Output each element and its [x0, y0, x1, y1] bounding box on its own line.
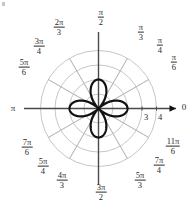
angle-3pi-4-denominator: 4	[34, 47, 45, 56]
angle-5pi-4-label: 5π4	[38, 157, 49, 176]
radial-tick-3-text: 3	[144, 113, 148, 122]
angle-pi-4-denominator: 4	[157, 46, 163, 55]
angle-pi-2-denominator: 2	[98, 18, 104, 27]
angle-pi-6-denominator: 6	[171, 63, 177, 72]
angle-7pi-4-denominator: 4	[154, 166, 165, 175]
angle-0-label: 0	[182, 103, 187, 112]
angle-pi-2-label: π2	[98, 8, 104, 27]
angle-5pi-3-label: 5π3	[135, 171, 146, 190]
radial-tick-4-text: 4	[158, 113, 162, 122]
angle-11pi-6-label: 11π6	[166, 137, 180, 156]
angle-7pi-6-denominator: 6	[22, 148, 33, 157]
angle-5pi-4-denominator: 4	[38, 167, 49, 176]
angle-2pi-3-label: 2π3	[54, 18, 65, 37]
angle-3pi-2-denominator: 2	[96, 193, 107, 202]
angle-5pi-6-label: 5π6	[19, 58, 30, 77]
angle-5pi-3-denominator: 3	[135, 181, 146, 190]
angle-2pi-3-denominator: 3	[54, 28, 65, 37]
angle-pi-6-label: π6	[171, 53, 177, 72]
angle-pi-3-denominator: 3	[138, 33, 144, 42]
axis-arrowhead-icon	[170, 105, 177, 111]
angle-pi-3-label: π3	[138, 23, 144, 42]
angle-pi-4-label: π4	[157, 36, 163, 55]
angle-5pi-6-denominator: 6	[19, 68, 30, 77]
angle-7pi-6-label: 7π6	[22, 138, 33, 157]
polar-plot-figure: 0π6π4π3π22π33π45π6π7π65π44π33π25π37π411π…	[0, 0, 195, 212]
angle-3pi-4-label: 3π4	[34, 37, 45, 56]
angle-4pi-3-denominator: 3	[57, 181, 68, 190]
angle-11pi-6-denominator: 6	[166, 147, 180, 156]
angle-pi-label: π	[11, 104, 16, 113]
polar-plot-canvas	[0, 0, 195, 212]
angle-3pi-2-label: 3π2	[96, 183, 107, 202]
angle-7pi-4-label: 7π4	[154, 156, 165, 175]
angle-4pi-3-label: 4π3	[57, 171, 68, 190]
